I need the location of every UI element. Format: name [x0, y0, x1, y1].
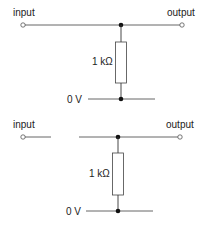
- output-label: output: [166, 119, 194, 130]
- resistor: [116, 42, 127, 83]
- input-label: input: [13, 119, 35, 130]
- output-label: output: [167, 7, 195, 18]
- input-terminal: [21, 23, 25, 27]
- circuit-bottom: input output 1 kΩ 0 V: [13, 119, 194, 217]
- resistor-label: 1 kΩ: [89, 168, 110, 179]
- output-terminal: [178, 135, 182, 139]
- junction-dot: [119, 97, 124, 102]
- resistor-label: 1 kΩ: [92, 56, 113, 67]
- junction-dot: [116, 209, 121, 214]
- output-terminal: [180, 23, 184, 27]
- circuit-diagram: input output 1 kΩ 0 V input output 1 kΩ …: [0, 0, 208, 226]
- input-terminal: [21, 135, 25, 139]
- input-label: input: [13, 7, 35, 18]
- circuit-top: input output 1 kΩ 0 V: [13, 7, 195, 105]
- ground-label: 0 V: [66, 206, 81, 217]
- ground-label: 0 V: [67, 94, 82, 105]
- resistor: [113, 153, 124, 195]
